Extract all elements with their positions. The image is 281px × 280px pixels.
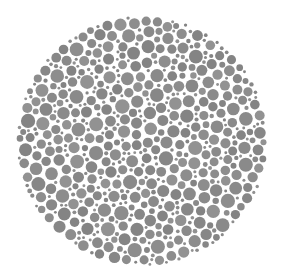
plate-dot xyxy=(179,73,185,79)
plate-dot xyxy=(132,140,142,150)
plate-dot xyxy=(204,33,208,37)
plate-dot xyxy=(85,133,95,143)
plate-dot xyxy=(175,201,179,205)
plate-dot xyxy=(163,22,173,32)
plate-dot xyxy=(128,218,132,222)
plate-dot xyxy=(202,150,211,159)
plate-dot xyxy=(112,84,122,94)
plate-dot xyxy=(195,113,198,116)
plate-dot xyxy=(119,202,122,205)
plate-dot xyxy=(82,236,85,239)
plate-dot xyxy=(178,181,186,189)
plate-dot xyxy=(188,157,200,169)
plate-dot xyxy=(134,209,145,220)
plate-dot xyxy=(134,167,143,176)
plate-dot xyxy=(151,190,156,195)
plate-dot xyxy=(188,141,202,155)
plate-dot xyxy=(97,81,104,88)
plate-dot xyxy=(115,99,129,113)
plate-dot xyxy=(120,189,124,193)
plate-dot xyxy=(47,93,57,103)
plate-dot xyxy=(153,17,162,26)
plate-dot xyxy=(150,88,164,102)
plate-dot xyxy=(150,69,163,82)
ishihara-plate-stage xyxy=(0,0,281,280)
plate-dot xyxy=(167,125,179,137)
plate-dot xyxy=(140,255,149,264)
plate-dot xyxy=(219,62,225,68)
plate-dot xyxy=(202,76,214,88)
plate-dot xyxy=(207,89,218,100)
plate-dot xyxy=(114,19,126,31)
plate-dot xyxy=(113,111,116,114)
plate-dot xyxy=(176,54,180,58)
plate-dot xyxy=(194,175,197,178)
ishihara-plate-image xyxy=(0,0,281,280)
plate-dot xyxy=(223,128,232,137)
plate-dot xyxy=(118,42,127,51)
plate-dot xyxy=(46,199,57,210)
plate-dot xyxy=(53,104,56,107)
plate-dot xyxy=(96,25,99,28)
plate-dot xyxy=(181,55,185,59)
plate-dot xyxy=(106,86,109,89)
plate-dot xyxy=(162,33,173,44)
plate-dot xyxy=(163,84,173,94)
plate-dot xyxy=(59,45,69,55)
plate-dot xyxy=(134,261,137,264)
plate-dot xyxy=(203,51,207,55)
plate-dot xyxy=(144,107,156,119)
plate-dot xyxy=(185,59,189,63)
plate-dot xyxy=(105,166,116,177)
plate-dot xyxy=(148,102,151,105)
plate-dot xyxy=(169,111,179,121)
plate-dot xyxy=(198,130,209,141)
plate-dot xyxy=(194,117,198,121)
plate-dot xyxy=(124,88,133,97)
plate-dot xyxy=(247,129,253,135)
plate-dot xyxy=(239,158,253,172)
plate-dot xyxy=(216,83,219,86)
plate-dot xyxy=(227,55,236,64)
plate-dot xyxy=(209,145,212,148)
plate-dot xyxy=(27,88,33,94)
plate-dot xyxy=(186,79,199,92)
plate-dot xyxy=(167,71,177,81)
plate-dot xyxy=(129,168,133,172)
plate-dot xyxy=(127,59,130,62)
plate-dot xyxy=(56,189,70,203)
plate-dot xyxy=(117,74,120,77)
plate-dot xyxy=(170,148,174,152)
plate-dot xyxy=(176,93,179,96)
plate-dot xyxy=(62,56,72,66)
plate-dot xyxy=(215,41,218,44)
plate-dot xyxy=(181,203,194,216)
plate-dot xyxy=(163,235,167,239)
plate-dot xyxy=(224,189,227,192)
plate-dot xyxy=(249,154,252,157)
plate-dot xyxy=(163,69,166,72)
plate-dot xyxy=(57,87,60,90)
plate-dot xyxy=(93,86,96,89)
plate-dot xyxy=(144,80,153,89)
plate-dot xyxy=(154,37,160,43)
plate-dot xyxy=(236,64,243,71)
plate-dot xyxy=(102,157,111,166)
plate-dot xyxy=(145,226,148,229)
plate-dot xyxy=(169,97,182,110)
plate-dot xyxy=(81,223,93,235)
plate-dot xyxy=(224,124,227,127)
plate-dot xyxy=(119,222,128,231)
plate-dot xyxy=(79,56,89,66)
plate-dot xyxy=(130,192,141,203)
plate-dot xyxy=(233,74,242,83)
plate-dot xyxy=(50,83,56,89)
plate-dot xyxy=(225,77,228,80)
plate-dot xyxy=(19,159,29,169)
plate-dot xyxy=(209,134,219,144)
plate-dot xyxy=(70,217,80,227)
plate-dot xyxy=(112,179,121,188)
plate-dot xyxy=(58,208,71,221)
plate-dot xyxy=(33,146,36,149)
plate-dot xyxy=(169,236,172,239)
